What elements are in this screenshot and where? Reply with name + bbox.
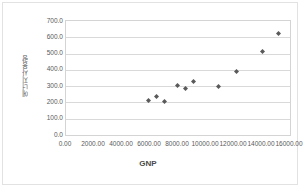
y-axis-tick-label: 400.0	[27, 65, 63, 72]
data-point[interactable]	[234, 69, 239, 74]
data-point[interactable]	[216, 84, 221, 89]
x-axis-title: GNP	[3, 159, 293, 168]
y-axis-tick-label: 100.0	[27, 114, 63, 121]
x-axis-tick-labels: 0.002000.004000.006000.008000.0010000.00…	[3, 139, 299, 153]
data-point[interactable]	[183, 86, 188, 91]
y-axis-tick-label: 300.0	[27, 82, 63, 89]
plot-area[interactable]	[65, 20, 291, 136]
y-axis-tick-label: 700.0	[27, 17, 63, 24]
gridline-horizontal	[66, 102, 290, 103]
gridline-horizontal	[66, 54, 290, 55]
data-point[interactable]	[276, 31, 281, 36]
y-axis-tick-label: 600.0	[27, 33, 63, 40]
gridline-horizontal	[66, 70, 290, 71]
data-point[interactable]	[154, 94, 159, 99]
data-point[interactable]	[191, 79, 196, 84]
y-axis-tick-label: 200.0	[27, 98, 63, 105]
data-point[interactable]	[146, 98, 151, 103]
data-point[interactable]	[260, 49, 265, 54]
data-point[interactable]	[175, 83, 180, 88]
chart-frame: 에너지사용량 0.0100.0200.0300.0400.0500.0600.0…	[2, 2, 298, 185]
gridline-horizontal	[66, 37, 290, 38]
x-axis-tick-label: 16000.00	[267, 139, 304, 148]
y-axis-tick-label: 0.0	[27, 131, 63, 138]
data-point[interactable]	[162, 99, 167, 104]
gridline-horizontal	[66, 119, 290, 120]
y-axis-tick-label: 500.0	[27, 49, 63, 56]
